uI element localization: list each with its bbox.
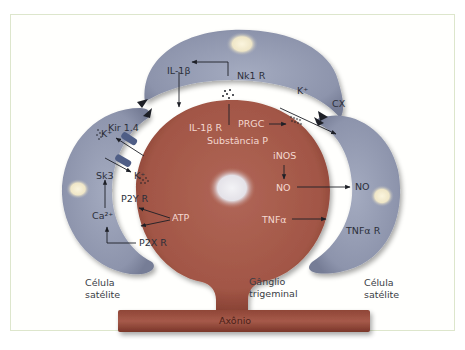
label-il1b-r: IL-1β R	[189, 122, 222, 133]
label-prgc: PRGC	[238, 118, 265, 129]
sk3-channel-icon	[114, 153, 132, 168]
label-axon: Axônio	[219, 315, 251, 326]
label-il1b: IL-1β	[167, 65, 190, 76]
caption-right-line2: satélite	[364, 289, 399, 300]
caption-left-line2: satélite	[85, 289, 120, 300]
label-no-neuron: NO	[276, 182, 291, 193]
label-nk1r: Nk1 R	[237, 70, 266, 81]
substancia-p-particles	[222, 89, 234, 99]
caption-ganglion-line1: Gânglio	[249, 276, 286, 287]
label-inos: iNOS	[273, 150, 296, 161]
trigeminal-ganglion-diagram: IL-1β Nk1 R K⁺ CX IL-1β R Substância P P…	[0, 0, 465, 350]
satellite-left-nucleus	[66, 179, 90, 199]
label-ca: Ca²⁺	[92, 210, 113, 221]
label-atp: ATP	[172, 212, 190, 223]
neuron-nucleus	[208, 167, 256, 209]
label-k-cx: K⁺	[297, 85, 308, 96]
label-substancia-p: Substância P	[207, 135, 268, 146]
label-no-satellite: NO	[355, 181, 370, 192]
label-p2yr: P2Y R	[121, 193, 149, 204]
caption-left-line1: Célula	[85, 277, 115, 288]
label-tnfar: TNFα R	[345, 225, 381, 236]
label-tnfa: TNFα	[261, 214, 287, 225]
label-sk3: Sk3	[96, 170, 114, 181]
label-kir: Kir 1.4	[108, 122, 139, 133]
caption-right-line1: Célula	[364, 277, 394, 288]
label-p2xr: P2X R	[139, 237, 167, 248]
satellite-right-nucleus	[370, 185, 394, 207]
label-cx: CX	[332, 98, 346, 109]
caption-ganglion-line2: trigeminal	[249, 288, 298, 299]
label-k-out: K⁺	[134, 170, 145, 181]
satellite-top-nucleus	[226, 32, 258, 56]
label-k-in: K⁺	[101, 128, 112, 139]
